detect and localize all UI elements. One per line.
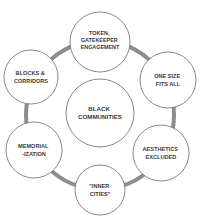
node-label-line-1: AESTHETICS	[143, 146, 179, 152]
svg-text:AESTHETICS EXCLUDED: AESTHETICS EXCLUDED	[143, 146, 180, 160]
node-label-line-1: TOKEN,	[89, 30, 110, 36]
node-label-line-1: BLOCKS &	[16, 70, 45, 76]
node-label-line-1: ONE SIZE	[154, 73, 180, 79]
svg-text:BLOCKS & CORRIDORS: BLOCKS & CORRIDORS	[14, 70, 48, 84]
svg-text:MEMORIAL -IZATION: MEMORIAL -IZATION	[18, 143, 50, 157]
svg-text:ONE SIZE FITS ALL: ONE SIZE FITS ALL	[154, 73, 182, 87]
node-label-line-2: FITS ALL	[156, 81, 181, 87]
node-label-line-1: "INNER	[89, 183, 109, 189]
center-label-line-2: COMMUNITIES	[78, 113, 122, 120]
diagram-canvas: BLACK COMMUNITIES TOKEN, GATEKEEPER ENGA…	[0, 0, 200, 220]
svg-text:"INNER CITIES": "INNER CITIES"	[89, 183, 111, 197]
node-label-line-2: EXCLUDED	[146, 154, 177, 160]
center-label-line-1: BLACK	[88, 105, 110, 112]
node-inner-cities: "INNER CITIES"	[75, 165, 125, 215]
node-token-gatekeeper-engagement: TOKEN, GATEKEEPER ENGAGEMENT	[70, 12, 130, 72]
node-one-size-fits-all: ONE SIZE FITS ALL	[140, 52, 196, 108]
node-label-line-3: ENGAGEMENT	[81, 44, 120, 50]
node-label-line-2: GATEKEEPER	[81, 37, 118, 43]
node-label-line-2: -IZATION	[22, 151, 46, 157]
node-aesthetics-excluded: AESTHETICS EXCLUDED	[133, 125, 189, 181]
center-node-black-communities: BLACK COMMUNITIES	[66, 79, 134, 147]
node-label-line-2: CITIES"	[90, 191, 111, 197]
node-label-line-2: CORRIDORS	[14, 78, 48, 84]
node-memorialization: MEMORIAL -IZATION	[6, 122, 62, 178]
node-label-line-1: MEMORIAL	[18, 143, 49, 149]
node-blocks-corridors: BLOCKS & CORRIDORS	[4, 50, 58, 104]
